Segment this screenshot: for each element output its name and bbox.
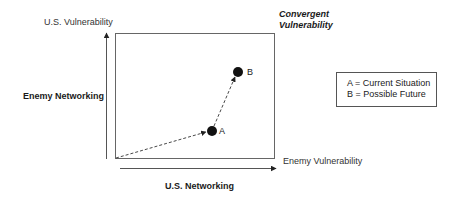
enemy-networking-label: Enemy Networking (23, 92, 104, 101)
legend-item-a: A = Current Situation (347, 78, 436, 89)
point-b-marker (233, 67, 243, 77)
trajectory-a-to-b (214, 77, 235, 126)
corner-label-line1: Convergent (279, 9, 333, 20)
convergent-vulnerability-label: Convergent Vulnerability (279, 9, 333, 31)
point-a-marker (207, 126, 217, 136)
us-networking-label: U.S. Networking (165, 182, 234, 191)
plot-box (116, 34, 275, 159)
x-axis-label: Enemy Vulnerability (283, 157, 362, 166)
trajectory-origin-to-a (116, 132, 206, 158)
legend-box: A = Current Situation B = Possible Futur… (336, 72, 437, 107)
point-b-label: B (247, 68, 253, 77)
point-a-label: A (219, 127, 225, 136)
legend-item-b: B = Possible Future (347, 89, 436, 100)
y-axis-label: U.S. Vulnerability (44, 18, 113, 27)
corner-label-line2: Vulnerability (279, 20, 333, 31)
